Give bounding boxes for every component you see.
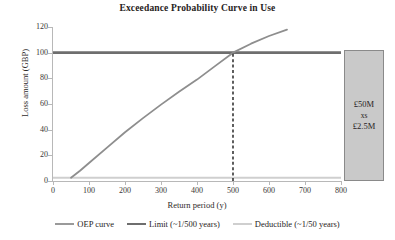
x-tick-label: 800: [321, 187, 361, 195]
chart-title: Exceedance Probability Curve in Use: [0, 3, 395, 13]
layer-box-deductible-label: £2.5M: [353, 121, 375, 132]
x-tick-label: 500: [213, 187, 253, 195]
x-tick-mark: [269, 181, 270, 185]
layer-box-xs-label: xs: [361, 110, 368, 121]
layer-box: £50M xs £2.5M: [344, 50, 384, 181]
legend-swatch-icon: [127, 223, 146, 226]
x-tick-label: 0: [33, 187, 73, 195]
chart-legend: OEP curveLimit (~1/500 years)Deductible …: [0, 219, 395, 229]
plot-area: [53, 27, 341, 181]
x-tick-label: 400: [177, 187, 217, 195]
y-axis-title: Loss amount (GBP): [20, 13, 30, 153]
y-tick-mark: [48, 78, 52, 79]
legend-entry[interactable]: Limit (~1/500 years): [127, 219, 220, 229]
x-tick-mark: [161, 181, 162, 185]
x-tick-label: 300: [141, 187, 181, 195]
legend-label: OEP curve: [77, 219, 114, 229]
layer-box-limit-label: £50M: [354, 99, 374, 110]
chart-figure: Exceedance Probability Curve in Use 0204…: [0, 0, 395, 240]
legend-entry[interactable]: Deductible (~1/50 years): [233, 219, 340, 229]
y-tick-label: 0: [8, 177, 48, 185]
x-tick-label: 600: [249, 187, 289, 195]
x-axis-title: Return period (y): [53, 200, 341, 210]
x-tick-mark: [233, 181, 234, 185]
y-tick-mark: [48, 181, 52, 182]
y-tick-mark: [48, 155, 52, 156]
legend-swatch-icon: [233, 223, 252, 225]
y-tick-mark: [48, 53, 52, 54]
x-tick-label: 700: [285, 187, 325, 195]
y-tick-mark: [48, 130, 52, 131]
x-tick-label: 200: [105, 187, 145, 195]
x-tick-mark: [341, 181, 342, 185]
x-tick-label: 100: [69, 187, 109, 195]
legend-swatch-icon: [55, 223, 74, 225]
y-tick-mark: [48, 27, 52, 28]
x-tick-mark: [197, 181, 198, 185]
x-tick-mark: [305, 181, 306, 185]
legend-entry[interactable]: OEP curve: [55, 219, 114, 229]
y-tick-mark: [48, 104, 52, 105]
legend-label: Deductible (~1/50 years): [255, 219, 340, 229]
x-tick-mark: [125, 181, 126, 185]
legend-label: Limit (~1/500 years): [149, 219, 220, 229]
plot-svg: [53, 27, 341, 181]
x-tick-mark: [89, 181, 90, 185]
x-tick-mark: [53, 181, 54, 185]
